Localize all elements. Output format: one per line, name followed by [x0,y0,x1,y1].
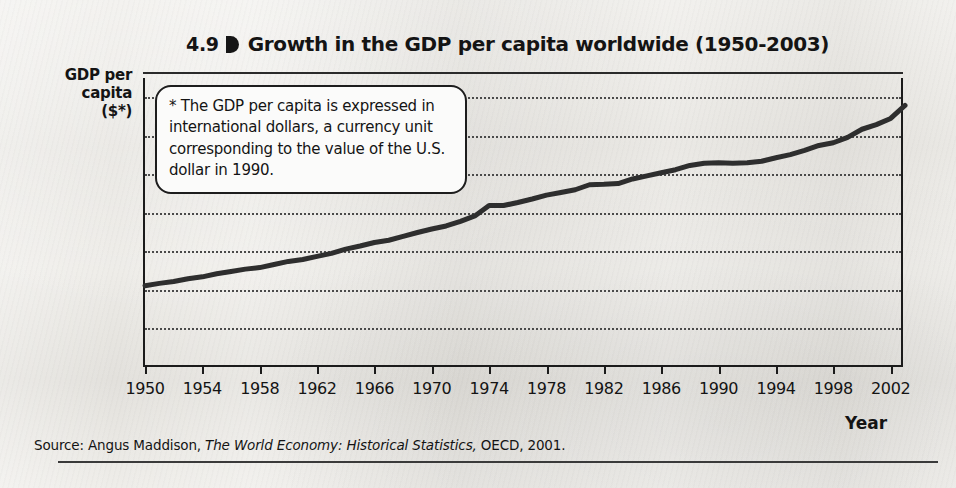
x-axis-tick-label: 1978 [517,379,577,398]
x-axis-tick-label: 1958 [230,379,290,398]
source-prefix: Source: Angus Maddison, [34,437,201,453]
x-axis-tick-label: 1974 [459,379,519,398]
x-axis-tick-label: 1998 [803,379,863,398]
x-axis-tick-label: 1962 [287,379,347,398]
y-axis-title-line-3: ($*) [10,102,132,120]
figure-title-row: 4.9 Growth in the GDP per capita worldwi… [186,32,829,56]
x-axis-tick-label: 1966 [344,379,404,398]
x-axis-tick-label: 1982 [574,379,634,398]
y-axis-title-line-1: GDP per [10,66,132,84]
x-axis-tick-label: 1954 [172,379,232,398]
x-axis-tick-label: 2002 [861,379,921,398]
x-axis-tick-label: 1990 [689,379,749,398]
title-divider [143,72,903,74]
source-citation: Source: Angus Maddison, The World Econom… [34,437,565,453]
x-axis-title: Year [845,413,887,433]
x-axis-tick-label: 1970 [402,379,462,398]
bottom-divider [58,461,938,463]
y-axis-title-line-2: capita [10,84,132,102]
x-axis-tick-label: 1950 [115,379,175,398]
page-title: Growth in the GDP per capita worldwide (… [248,32,829,56]
source-title-italic: The World Economy: Historical Statistics… [205,437,477,453]
x-axis-tick-label: 1994 [746,379,806,398]
x-axis-tick-label: 1986 [631,379,691,398]
right-pointer-marker-icon [226,36,239,53]
y-axis-title: GDP per capita ($*) [10,66,132,120]
figure-number: 4.9 [186,33,219,55]
footnote-callout: * The GDP per capita is expressed in int… [155,85,467,194]
source-suffix: OECD, 2001. [481,437,566,453]
footnote-callout-text: * The GDP per capita is expressed in int… [169,97,445,179]
